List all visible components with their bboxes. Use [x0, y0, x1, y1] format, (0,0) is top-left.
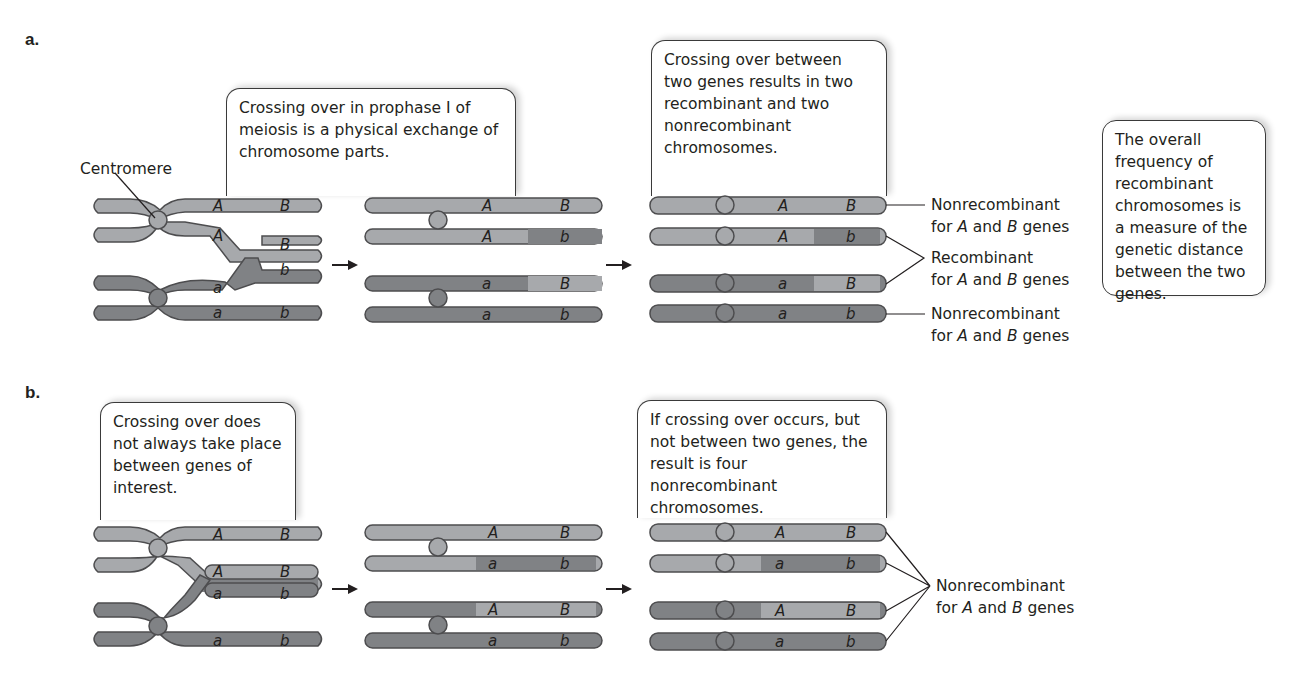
- svg-text:a: a: [778, 305, 787, 323]
- svg-text:A: A: [481, 197, 492, 215]
- panel-a-stage1-chromosomes: [94, 199, 322, 320]
- svg-text:b: b: [560, 228, 570, 246]
- result-pointer-lines-b: [886, 532, 930, 641]
- svg-text:a: a: [775, 555, 784, 573]
- svg-text:a: a: [482, 275, 491, 293]
- svg-text:A: A: [774, 602, 785, 620]
- svg-text:B: B: [280, 197, 290, 215]
- svg-text:A: A: [212, 526, 223, 544]
- svg-text:B: B: [280, 526, 290, 544]
- svg-text:a: a: [775, 633, 784, 651]
- label-nonrecombinant-b-title: Nonrecombinant: [936, 575, 1074, 597]
- svg-text:B: B: [846, 275, 856, 293]
- svg-text:a: a: [488, 632, 497, 650]
- label-nonrecombinant-bottom-title: Nonrecombinant: [931, 303, 1069, 325]
- svg-text:a: a: [488, 555, 497, 573]
- svg-text:A: A: [481, 228, 492, 246]
- svg-text:B: B: [846, 197, 856, 215]
- svg-text:B: B: [560, 275, 570, 293]
- svg-text:b: b: [280, 304, 290, 322]
- svg-text:A: A: [212, 227, 223, 245]
- svg-text:B: B: [846, 524, 856, 542]
- svg-text:A: A: [774, 524, 785, 542]
- label-nonrecombinant-top: Nonrecombinant for A and B genes: [931, 194, 1069, 238]
- svg-text:a: a: [482, 306, 491, 324]
- svg-text:A: A: [212, 563, 223, 581]
- arrow-right-icon: [332, 584, 358, 594]
- svg-text:b: b: [560, 555, 570, 573]
- label-nonrecombinant-b-genes: for A and B genes: [936, 597, 1074, 619]
- label-recombinant-title: Recombinant: [931, 247, 1069, 269]
- arrow-right-icon: [606, 260, 632, 270]
- svg-text:a: a: [778, 275, 787, 293]
- svg-text:b: b: [560, 306, 570, 324]
- svg-text:b: b: [846, 228, 856, 246]
- panel-b-result-chromosomes: [650, 523, 886, 650]
- label-recombinant-genes: for A and B genes: [931, 269, 1069, 291]
- svg-text:B: B: [280, 236, 290, 254]
- svg-text:A: A: [777, 197, 788, 215]
- svg-text:A: A: [212, 197, 223, 215]
- panel-b-stage2-chromosomes: [365, 525, 602, 648]
- svg-text:a: a: [213, 304, 222, 322]
- svg-text:b: b: [560, 632, 570, 650]
- svg-text:b: b: [280, 261, 290, 279]
- svg-text:b: b: [846, 305, 856, 323]
- svg-text:b: b: [846, 633, 856, 651]
- result-pointer-lines: [886, 205, 925, 314]
- arrow-right-icon: [606, 584, 632, 594]
- svg-text:b: b: [280, 632, 290, 650]
- svg-text:a: a: [213, 279, 222, 297]
- svg-text:A: A: [777, 228, 788, 246]
- chromosome-diagram: AB AB ba ab AB Ab aB ab: [0, 0, 1299, 685]
- svg-text:b: b: [280, 585, 290, 603]
- label-nonrecombinant-top-title: Nonrecombinant: [931, 194, 1069, 216]
- svg-text:a: a: [213, 632, 222, 650]
- label-nonrecombinant-bottom-genes: for A and B genes: [931, 325, 1069, 347]
- svg-text:a: a: [213, 585, 222, 603]
- panel-a-stage2-chromosomes: [365, 198, 602, 322]
- svg-text:B: B: [560, 601, 570, 619]
- svg-text:B: B: [846, 602, 856, 620]
- svg-text:A: A: [487, 601, 498, 619]
- svg-text:b: b: [846, 555, 856, 573]
- label-nonrecombinant-b: Nonrecombinant for A and B genes: [936, 575, 1074, 619]
- svg-text:B: B: [560, 524, 570, 542]
- label-nonrecombinant-bottom: Nonrecombinant for A and B genes: [931, 303, 1069, 347]
- svg-text:B: B: [280, 563, 290, 581]
- label-nonrecombinant-top-genes: for A and B genes: [931, 216, 1069, 238]
- svg-text:B: B: [560, 197, 570, 215]
- label-recombinant: Recombinant for A and B genes: [931, 247, 1069, 291]
- svg-text:A: A: [487, 524, 498, 542]
- arrow-right-icon: [332, 260, 358, 270]
